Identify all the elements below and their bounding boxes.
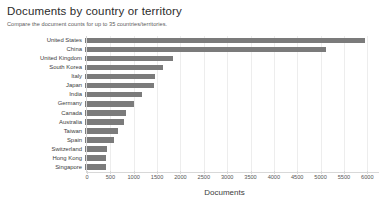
bar[interactable]	[85, 110, 126, 116]
bar-cell	[85, 136, 379, 145]
bar-cell	[85, 45, 379, 54]
bar-row: Italy	[0, 72, 379, 81]
x-tick-label: 2500	[198, 174, 210, 180]
bar-row: Australia	[0, 118, 379, 127]
category-label: United States	[0, 37, 85, 44]
bar[interactable]	[85, 83, 154, 89]
bar[interactable]	[85, 92, 142, 98]
x-axis-line	[87, 172, 379, 173]
bar-row: South Korea	[0, 63, 379, 72]
bar-row: India	[0, 90, 379, 99]
x-tick-label: 4500	[291, 174, 303, 180]
y-axis-line	[86, 36, 87, 173]
x-tick-label: 0	[85, 174, 88, 180]
bar-cell	[85, 145, 379, 154]
bar[interactable]	[85, 155, 106, 161]
category-label: United Kingdom	[0, 55, 85, 62]
category-label: Canada	[0, 110, 85, 117]
bar-cell	[85, 72, 379, 81]
category-label: India	[0, 91, 85, 98]
x-tick-label: 5000	[314, 174, 326, 180]
bar-rows: United StatesChinaUnited KingdomSouth Ko…	[0, 36, 379, 172]
x-tick-label: 4000	[268, 174, 280, 180]
bar-row: United Kingdom	[0, 54, 379, 63]
x-tick-label: 3500	[244, 174, 256, 180]
x-axis-title: Documents	[0, 188, 379, 197]
bar-cell	[85, 63, 379, 72]
bar-row: Singapore	[0, 163, 379, 172]
chart-panel: Documents by country or territory Compar…	[0, 0, 379, 210]
category-label: Switzerland	[0, 146, 85, 153]
x-tick-label: 2000	[174, 174, 186, 180]
bar-cell	[85, 154, 379, 163]
bar[interactable]	[85, 74, 155, 80]
x-tick-label: 1500	[151, 174, 163, 180]
bar-cell	[85, 90, 379, 99]
category-label: Germany	[0, 100, 85, 107]
bar-row: Hong Kong	[0, 154, 379, 163]
x-tick-label: 6000	[361, 174, 373, 180]
x-tick-label: 500	[106, 174, 115, 180]
category-label: Spain	[0, 137, 85, 144]
plot-area: United StatesChinaUnited KingdomSouth Ko…	[0, 30, 379, 210]
bar[interactable]	[85, 137, 114, 143]
x-tick-label: 1000	[127, 174, 139, 180]
chart-subtitle: Compare the document counts for up to 35…	[7, 20, 379, 28]
bar-cell	[85, 54, 379, 63]
bar[interactable]	[85, 119, 124, 125]
bar-cell	[85, 127, 379, 136]
x-axis-title-text: Documents	[134, 188, 244, 197]
bar-cell	[85, 99, 379, 108]
bar[interactable]	[85, 65, 163, 71]
category-label: Japan	[0, 82, 85, 89]
chart-header: Documents by country or territory Compar…	[0, 0, 379, 28]
bar-row: Germany	[0, 99, 379, 108]
category-label: Italy	[0, 73, 85, 80]
bar-row: Spain	[0, 136, 379, 145]
bar-row: China	[0, 45, 379, 54]
category-label: Australia	[0, 119, 85, 126]
bar-cell	[85, 81, 379, 90]
x-tick-label: 3000	[221, 174, 233, 180]
x-tick-label: 5500	[338, 174, 350, 180]
bar-cell	[85, 118, 379, 127]
bar[interactable]	[85, 128, 118, 134]
page-title: Documents by country or territory	[7, 5, 379, 18]
bar-cell	[85, 163, 379, 172]
category-label: Singapore	[0, 164, 85, 171]
bar-row: United States	[0, 36, 379, 45]
category-label: Hong Kong	[0, 155, 85, 162]
x-axis-tick-labels: 0500100015002000250030003500400045005000…	[87, 174, 379, 186]
category-label: China	[0, 46, 85, 53]
bar[interactable]	[85, 47, 326, 53]
bar[interactable]	[85, 164, 106, 170]
bar-cell	[85, 36, 379, 45]
bar[interactable]	[85, 56, 173, 62]
bar-row: Canada	[0, 109, 379, 118]
category-label: South Korea	[0, 64, 85, 71]
bar-cell	[85, 109, 379, 118]
category-label: Taiwan	[0, 128, 85, 135]
bar-row: Switzerland	[0, 145, 379, 154]
bar-row: Japan	[0, 81, 379, 90]
bar-row: Taiwan	[0, 127, 379, 136]
bar[interactable]	[85, 101, 134, 107]
bar[interactable]	[85, 146, 107, 152]
bar[interactable]	[85, 38, 365, 44]
